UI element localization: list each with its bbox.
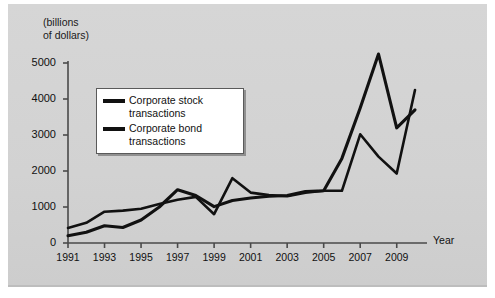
x-tick-label: 2007: [340, 251, 380, 263]
x-tick-label: 2003: [267, 251, 307, 263]
legend-item-bond: Corporate bondtransactions: [103, 122, 239, 148]
legend-label-stock-line2: transactions: [129, 107, 186, 119]
y-tick-label: 2000: [16, 164, 56, 176]
legend-label-bond: Corporate bondtransactions: [129, 122, 202, 148]
chart-figure: (billions of dollars) 010002000300040005…: [0, 0, 495, 298]
legend-label-stock-line1: Corporate stock: [129, 94, 203, 106]
x-tick-label: 1997: [158, 251, 198, 263]
y-tick-label: 5000: [16, 56, 56, 68]
chart-legend: Corporate stocktransactions Corporate bo…: [96, 88, 244, 154]
legend-label-bond-line1: Corporate bond: [129, 122, 202, 134]
legend-swatch-stock-icon: [103, 99, 125, 103]
x-tick-label: 1999: [194, 251, 234, 263]
x-tick-label: 1993: [85, 251, 125, 263]
x-tick-label: 1991: [48, 251, 88, 263]
y-tick-label: 1000: [16, 200, 56, 212]
y-tick-label: 0: [16, 236, 56, 248]
x-axis-title: Year: [433, 234, 454, 246]
x-tick-label: 1995: [121, 251, 161, 263]
legend-label-bond-line2: transactions: [129, 135, 186, 147]
x-tick-label: 2005: [304, 251, 344, 263]
y-tick-label: 3000: [16, 128, 56, 140]
legend-swatch-bond-icon: [103, 127, 125, 131]
x-tick-label: 2001: [231, 251, 271, 263]
legend-label-stock: Corporate stocktransactions: [129, 94, 203, 120]
x-tick-label: 2009: [377, 251, 417, 263]
legend-item-stock: Corporate stocktransactions: [103, 94, 239, 120]
y-tick-label: 4000: [16, 92, 56, 104]
